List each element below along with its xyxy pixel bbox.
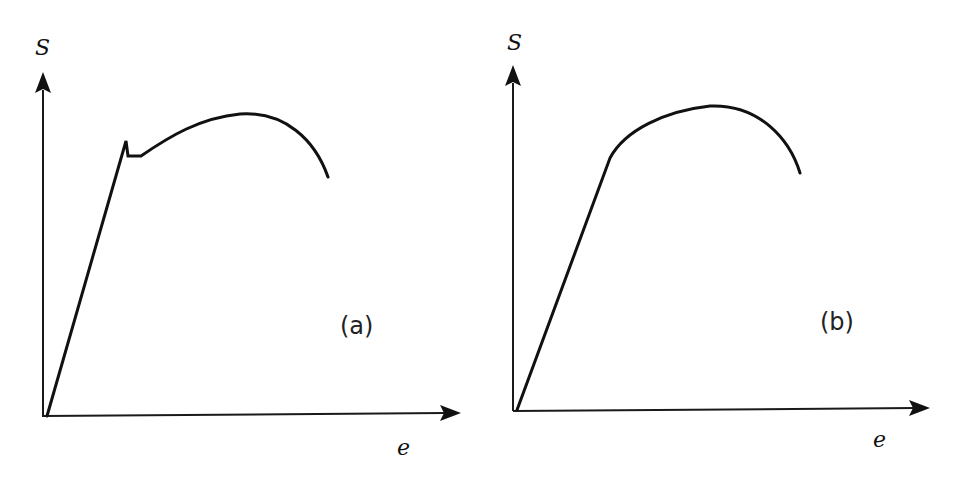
panel-b-x-axis	[513, 408, 915, 411]
panel-b-x-label: e	[873, 427, 886, 452]
panel-a-x-label: e	[397, 435, 410, 460]
panel-b-y-arrowhead	[505, 65, 521, 86]
panel-a-stress-strain-curve	[47, 114, 328, 416]
panel-a-x-axis	[43, 413, 445, 416]
panel-b-label: (b)	[820, 308, 854, 336]
panel-a: S e (a)	[35, 35, 461, 460]
panel-b-y-label: S	[507, 30, 522, 55]
panel-a-label: (a)	[340, 312, 373, 340]
stress-strain-figure: S e (a) S e (b)	[0, 0, 975, 477]
panel-b: S e (b)	[505, 30, 930, 452]
panel-b-stress-strain-curve	[517, 106, 800, 410]
panel-a-y-label: S	[35, 35, 50, 60]
panel-a-y-arrowhead	[35, 72, 51, 93]
